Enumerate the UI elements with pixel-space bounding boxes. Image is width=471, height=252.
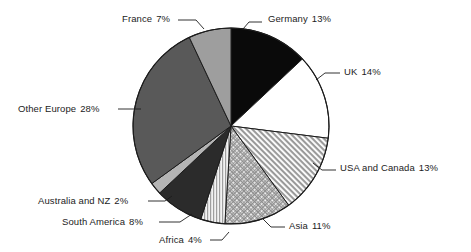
pie-label-south-america: South America8%: [62, 216, 143, 227]
pie-label-germany: Germany13%: [268, 13, 331, 24]
pie-label-uk: UK14%: [344, 66, 381, 77]
pie-label-name-usa-and-canada: USA and Canada: [340, 162, 415, 173]
pie-label-asia: Asia11%: [289, 220, 331, 231]
leader-line-france: [178, 20, 204, 29]
pie-slices: [133, 28, 329, 224]
pie-label-name-australia-and-nz: Australia and NZ: [38, 195, 110, 206]
leader-line-germany: [243, 22, 262, 29]
pie-label-africa: Africa4%: [159, 234, 202, 245]
leader-line-africa: [210, 232, 229, 240]
pie-label-name-south-america: South America: [62, 216, 125, 227]
pie-label-value-germany: 13%: [312, 13, 331, 24]
pie-label-value-australia-and-nz: 2%: [114, 195, 128, 206]
pie-label-australia-and-nz: Australia and NZ2%: [38, 195, 128, 206]
pie-label-name-uk: UK: [344, 66, 357, 77]
pie-label-france: France7%: [122, 13, 170, 24]
pie-chart-canvas: [0, 0, 471, 252]
pie-label-value-usa-and-canada: 13%: [419, 162, 438, 173]
pie-label-value-france: 7%: [156, 13, 170, 24]
pie-label-name-france: France: [122, 13, 152, 24]
leader-line-asia: [263, 219, 285, 227]
pie-label-value-other-europe: 28%: [80, 103, 99, 114]
leader-line-uk: [316, 73, 340, 80]
pie-chart-figure: Germany13%UK14%USA and Canada13%Asia11%A…: [0, 0, 471, 252]
pie-label-value-asia: 11%: [312, 220, 331, 231]
pie-label-other-europe: Other Europe28%: [18, 103, 100, 114]
pie-label-value-uk: 14%: [361, 66, 380, 77]
leader-line-south-america: [159, 214, 192, 222]
pie-label-value-africa: 4%: [188, 234, 202, 245]
pie-label-usa-and-canada: USA and Canada13%: [340, 162, 438, 173]
pie-label-name-africa: Africa: [159, 234, 184, 245]
pie-label-value-south-america: 8%: [129, 216, 143, 227]
pie-label-name-germany: Germany: [268, 13, 308, 24]
pie-label-name-asia: Asia: [289, 220, 308, 231]
pie-label-name-other-europe: Other Europe: [18, 103, 76, 114]
